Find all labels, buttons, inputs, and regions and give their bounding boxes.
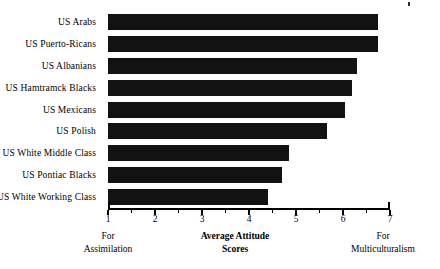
x-axis-minor-tick bbox=[319, 210, 320, 213]
axis-caption-left: For Assimilation bbox=[84, 230, 133, 255]
bar bbox=[108, 145, 289, 161]
x-axis-tick-label: 2 bbox=[153, 214, 158, 225]
axis-caption-right-line1: For bbox=[351, 230, 415, 243]
axis-caption-right: For Multiculturalism bbox=[351, 230, 415, 255]
bar-row: US Albanians bbox=[0, 55, 440, 77]
bar-row: US Mexicans bbox=[0, 99, 440, 121]
x-axis-tick-label: 4 bbox=[247, 214, 252, 225]
bar-row: US White Working Class bbox=[0, 186, 440, 208]
axis-title-line2: Scores bbox=[201, 243, 270, 256]
bar bbox=[108, 58, 357, 74]
axis-title: Average Attitude Scores bbox=[201, 230, 270, 255]
axis-caption-left-line2: Assimilation bbox=[84, 243, 133, 256]
category-label: US Puerto-Ricans bbox=[25, 39, 96, 50]
x-axis-right-cap bbox=[388, 202, 390, 209]
category-label: US Polish bbox=[56, 126, 96, 137]
x-axis-tick-label: 6 bbox=[341, 214, 346, 225]
bar-row: US White Middle Class bbox=[0, 142, 440, 164]
x-axis-tick-label: 7 bbox=[388, 214, 393, 225]
bar-row: US Puerto-Ricans bbox=[0, 33, 440, 55]
bar bbox=[108, 36, 378, 52]
category-label: US Hamtramck Blacks bbox=[6, 82, 96, 93]
bar bbox=[108, 102, 345, 118]
bar-row: US Arabs bbox=[0, 12, 440, 34]
category-label: US White Working Class bbox=[0, 191, 96, 202]
bar bbox=[108, 189, 268, 205]
axis-caption-left-line1: For bbox=[84, 230, 133, 243]
x-axis-minor-tick bbox=[225, 210, 226, 213]
bar-row: US Polish bbox=[0, 121, 440, 143]
x-axis-minor-tick bbox=[366, 210, 367, 213]
x-axis-minor-tick bbox=[272, 210, 273, 213]
x-axis-tick-label: 1 bbox=[106, 214, 111, 225]
category-label: US Albanians bbox=[42, 60, 96, 71]
x-axis-minor-tick bbox=[178, 210, 179, 213]
x-axis-left-cap bbox=[108, 202, 110, 209]
x-axis-tick-label: 3 bbox=[200, 214, 205, 225]
x-axis-tick-label: 5 bbox=[294, 214, 299, 225]
category-label: US Arabs bbox=[58, 17, 96, 28]
scan-artifact-speck bbox=[408, 2, 410, 6]
bar bbox=[108, 123, 327, 139]
bar-chart: US ArabsUS Puerto-RicansUS AlbaniansUS H… bbox=[0, 0, 440, 269]
bar bbox=[108, 80, 352, 96]
plot-area: US ArabsUS Puerto-RicansUS AlbaniansUS H… bbox=[0, 0, 440, 269]
axis-title-line1: Average Attitude bbox=[201, 230, 270, 243]
bar bbox=[108, 14, 378, 30]
category-label: US Pontiac Blacks bbox=[22, 169, 96, 180]
bar-row: US Hamtramck Blacks bbox=[0, 77, 440, 99]
category-label: US Mexicans bbox=[43, 104, 96, 115]
bar bbox=[108, 167, 282, 183]
x-axis-minor-tick bbox=[131, 210, 132, 213]
category-label: US White Middle Class bbox=[3, 148, 97, 159]
bar-row: US Pontiac Blacks bbox=[0, 164, 440, 186]
axis-caption-right-line2: Multiculturalism bbox=[351, 243, 415, 256]
